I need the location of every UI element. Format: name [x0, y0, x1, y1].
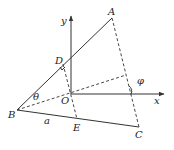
label-B: B	[7, 109, 15, 120]
dashed-DE-through-O	[63, 64, 77, 119]
label-x-axis: x	[154, 95, 160, 106]
label-A: A	[107, 6, 115, 17]
label-D: D	[54, 55, 63, 66]
dashed-AC	[112, 18, 139, 127]
label-y-axis: y	[60, 15, 67, 26]
label-side-a: a	[44, 115, 50, 126]
label-phi: φ	[137, 75, 144, 86]
geometry-diagram: A B C D E O y x θ φ a	[0, 0, 174, 150]
label-theta: θ	[33, 91, 39, 102]
label-E: E	[72, 122, 81, 133]
label-O: O	[61, 95, 69, 106]
label-C: C	[135, 129, 143, 140]
